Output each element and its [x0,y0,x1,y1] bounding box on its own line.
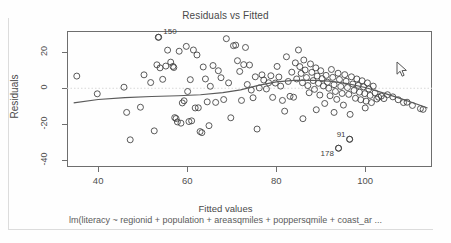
outlier-label-91: 91 [337,130,346,139]
outlier-label-178: 178 [321,149,334,158]
x-tick-label: 40 [83,175,113,186]
mouse-pointer-icon [396,61,409,78]
outlier-label-150: 150 [163,27,176,36]
r-plot-screenshot: Residuals vs Fitted Residuals Fitted val… [0,0,451,243]
x-tick-mark [365,167,366,172]
x-tick-label: 60 [172,175,202,186]
y-tick-label: 0 [39,72,49,102]
chart-title: Residuals vs Fitted [0,10,451,21]
window-bottom-border [8,229,433,230]
chart-subtitle: lm(literacy ~ regionid + population + ar… [0,215,451,225]
y-tick-label: -20 [39,108,49,138]
y-axis-title: Residuals [9,62,20,132]
x-axis-title: Fitted values [0,203,451,214]
lowess-smoother [67,31,432,167]
x-tick-label: 100 [350,175,380,186]
x-tick-mark [276,167,277,172]
x-tick-label: 80 [261,175,291,186]
x-tick-mark [98,167,99,172]
y-tick-label: -40 [39,144,49,174]
smoother-path [74,80,428,108]
y-tick-label: 20 [39,36,49,66]
plot-area: 15017891 [67,31,432,167]
x-tick-mark [187,167,188,172]
